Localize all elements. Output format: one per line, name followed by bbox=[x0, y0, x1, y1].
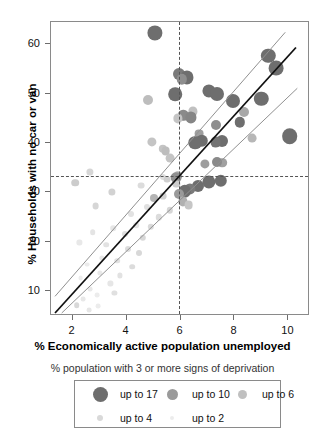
data-point bbox=[226, 94, 240, 108]
data-point bbox=[104, 242, 110, 248]
reference-line-vertical bbox=[179, 22, 180, 314]
data-point bbox=[150, 194, 158, 202]
data-point bbox=[215, 175, 227, 187]
y-tick bbox=[45, 93, 50, 94]
data-point bbox=[160, 193, 167, 200]
data-point bbox=[148, 137, 157, 146]
legend-swatch-circle-icon bbox=[97, 415, 103, 421]
x-tick-label: 8 bbox=[230, 324, 236, 336]
data-point bbox=[210, 87, 224, 101]
data-point bbox=[85, 262, 90, 267]
data-point bbox=[78, 276, 83, 281]
data-point bbox=[156, 214, 162, 220]
data-point bbox=[210, 137, 221, 148]
data-point bbox=[125, 246, 131, 252]
data-point bbox=[88, 287, 93, 292]
data-point bbox=[117, 273, 122, 278]
data-point bbox=[77, 240, 82, 245]
scatter-plot-figure: 246810102030405060 % Economically active… bbox=[0, 0, 325, 446]
legend-swatch-circle-icon bbox=[238, 390, 247, 399]
data-point bbox=[200, 159, 209, 168]
x-tick-label: 4 bbox=[122, 324, 128, 336]
x-tick bbox=[180, 315, 181, 320]
plot-area bbox=[50, 21, 309, 315]
data-point bbox=[144, 204, 150, 210]
data-point bbox=[173, 114, 182, 123]
y-axis-label: % Households with no car or van bbox=[26, 54, 38, 294]
x-tick bbox=[126, 315, 127, 320]
legend-swatch-circle-icon bbox=[93, 387, 108, 402]
data-point bbox=[138, 182, 145, 189]
data-point bbox=[97, 270, 102, 275]
x-tick bbox=[233, 315, 234, 320]
data-point bbox=[81, 297, 86, 302]
data-point bbox=[212, 157, 222, 167]
legend-item[interactable]: up to 2 bbox=[157, 406, 224, 430]
data-point bbox=[211, 120, 221, 130]
data-point bbox=[202, 175, 215, 188]
data-point bbox=[133, 222, 139, 228]
x-tick-label: 6 bbox=[176, 324, 182, 336]
y-tick-label: 60 bbox=[12, 37, 40, 49]
data-point bbox=[189, 136, 203, 150]
data-point bbox=[128, 211, 134, 217]
y-tick bbox=[45, 43, 50, 44]
x-tick-label: 2 bbox=[69, 324, 75, 336]
data-point bbox=[167, 207, 173, 213]
data-point bbox=[94, 293, 99, 298]
data-point bbox=[108, 188, 115, 195]
y-tick bbox=[45, 290, 50, 291]
data-point bbox=[282, 128, 298, 144]
data-point bbox=[114, 258, 120, 264]
x-tick bbox=[72, 315, 73, 320]
x-tick-label: 10 bbox=[281, 324, 293, 336]
data-point bbox=[96, 304, 101, 309]
legend-item[interactable]: up to 4 bbox=[85, 406, 152, 430]
data-point bbox=[112, 291, 117, 296]
data-point bbox=[136, 250, 142, 256]
data-point bbox=[235, 117, 245, 127]
data-point bbox=[122, 231, 128, 237]
data-point bbox=[110, 225, 116, 231]
data-point bbox=[92, 203, 99, 210]
data-point bbox=[239, 107, 249, 117]
data-point bbox=[71, 179, 79, 187]
data-point bbox=[100, 255, 105, 260]
legend: up to 17up to 10up to 6up to 4up to 2 bbox=[74, 380, 281, 428]
legend-swatch-circle-icon bbox=[170, 416, 175, 421]
legend-swatch-circle-icon bbox=[167, 389, 178, 400]
legend-label: up to 17 bbox=[120, 388, 158, 400]
y-tick bbox=[45, 191, 50, 192]
legend-item[interactable]: up to 10 bbox=[157, 382, 230, 406]
data-point bbox=[254, 92, 268, 106]
x-axis-label: % Economically active population unemplo… bbox=[0, 340, 325, 352]
data-point bbox=[129, 264, 135, 270]
data-point bbox=[140, 235, 146, 241]
legend-label: up to 10 bbox=[192, 388, 230, 400]
y-tick bbox=[45, 142, 50, 143]
data-point bbox=[86, 308, 91, 313]
legend-label: up to 2 bbox=[192, 412, 224, 424]
data-point bbox=[143, 95, 153, 105]
data-point bbox=[74, 302, 80, 308]
data-point bbox=[90, 229, 96, 235]
data-point bbox=[108, 281, 113, 286]
data-point bbox=[164, 176, 171, 183]
y-tick bbox=[45, 241, 50, 242]
legend-item[interactable]: up to 6 bbox=[227, 382, 294, 406]
legend-label: up to 4 bbox=[120, 412, 152, 424]
data-point bbox=[186, 112, 197, 123]
data-point bbox=[165, 153, 174, 162]
data-point bbox=[269, 61, 284, 76]
x-tick bbox=[287, 315, 288, 320]
data-point bbox=[248, 134, 257, 143]
data-point bbox=[184, 201, 193, 210]
legend-title: % population with 3 or more signs of dep… bbox=[0, 362, 325, 374]
data-point bbox=[147, 25, 162, 40]
legend-item[interactable]: up to 17 bbox=[85, 382, 158, 406]
data-point bbox=[148, 224, 154, 230]
reference-line-horizontal bbox=[51, 176, 308, 177]
fit-line-upper-band bbox=[55, 32, 285, 296]
legend-label: up to 6 bbox=[262, 388, 294, 400]
